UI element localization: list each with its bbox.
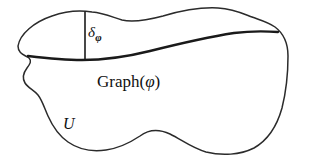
phi-subscript: φ: [95, 31, 101, 43]
delta-symbol: δ: [88, 24, 95, 40]
graph-suffix: ): [155, 72, 161, 91]
figure-canvas: δφ Graph(φ) U: [0, 0, 319, 163]
graph-phi-argument: φ: [145, 72, 154, 91]
graph-phi-label: Graph(φ): [97, 72, 160, 92]
region-U-label: U: [63, 115, 75, 133]
graph-prefix: Graph(: [97, 72, 145, 91]
graph-phi-curve: [28, 31, 278, 60]
delta-phi-label: δφ: [88, 24, 102, 43]
